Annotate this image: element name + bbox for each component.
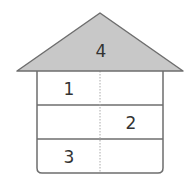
row-1-left: 1 [64,79,75,99]
roof-value: 4 [96,41,107,61]
number-house-diagram: 4 1 2 3 [0,0,192,184]
row-3-left: 3 [64,147,75,167]
row-2-right: 2 [126,113,137,133]
